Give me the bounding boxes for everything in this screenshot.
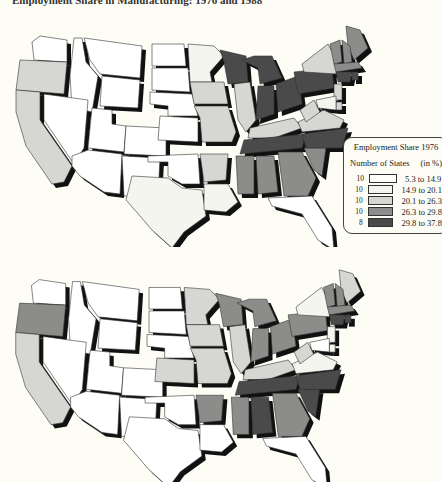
state-wy [100,76,140,108]
state-al [256,156,278,194]
legend-swatch [368,218,394,227]
state-in [256,86,274,120]
legend-row: 829.8 to 37.8 [350,217,442,228]
state-ut [86,350,123,393]
legend-state-count: 10 [350,174,364,183]
legend-range: 14.9 to 20.1 [401,185,442,195]
choropleth-map-1976: Employment Share 1976 Number of States (… [0,12,442,247]
legend-unit-header: (in %) [421,158,442,168]
state-ri [345,315,351,323]
legend-swatch [368,207,394,216]
state-ri [352,72,358,80]
figure-title: Employment Share in Manufacturing: 1976 … [12,0,262,6]
state-nd [149,287,182,309]
state-ks [158,116,198,142]
legend-range: 26.3 to 29.8 [401,207,442,217]
state-ks [155,358,194,383]
legend-row: 1026.3 to 29.8 [350,206,442,217]
us-map-1988 [0,252,442,482]
state-ct [336,72,352,82]
state-ne [147,334,194,358]
legend-title: Employment Share 1976 [350,142,442,152]
state-az [71,391,120,434]
legend-range: 29.8 to 37.8 [401,218,442,228]
state-al [251,397,273,434]
state-wy [98,319,137,350]
legend-state-count: 10 [350,185,363,194]
state-de [329,344,335,352]
legend-range: 5.3 to 14.9 [405,174,441,184]
legend-range: 20.1 to 26.3 [401,196,442,206]
legend-swatch [368,185,394,194]
state-wi [220,50,248,84]
legend-row: 1020.1 to 26.3 [350,195,442,206]
legend-1976: Employment Share 1976 Number of States (… [343,137,442,234]
state-md [310,338,330,352]
state-az [72,150,122,194]
state-fl [263,436,328,482]
state-ct [329,315,345,325]
legend-row: 105.3 to 14.9 [350,173,442,184]
state-md [316,96,336,110]
legend-count-header: Number of States [350,158,410,168]
state-sd [149,311,186,335]
legend-swatch [368,196,394,205]
state-or [16,303,66,336]
state-sd [152,68,190,92]
state-ms [236,156,254,194]
state-wa [32,36,67,62]
state-ia [186,325,223,347]
legend-swatch [369,174,397,183]
state-fl [268,196,334,247]
state-or [16,60,67,94]
state-ut [88,108,126,152]
state-nd [152,44,186,66]
legend-state-count: 10 [350,207,363,216]
state-in [251,329,269,362]
state-ia [190,82,228,104]
state-ms [231,397,249,434]
state-wa [31,280,65,305]
legend-state-count: 10 [350,196,363,205]
legend-state-count: 8 [350,218,363,227]
state-ar [196,395,223,422]
legend-row: 1014.9 to 20.1 [350,184,442,195]
state-ne [150,92,198,116]
state-ar [200,154,228,182]
state-de [336,102,342,110]
state-wi [216,293,243,326]
choropleth-map-1988: Employment Share 1988 Number of States (… [0,252,442,482]
